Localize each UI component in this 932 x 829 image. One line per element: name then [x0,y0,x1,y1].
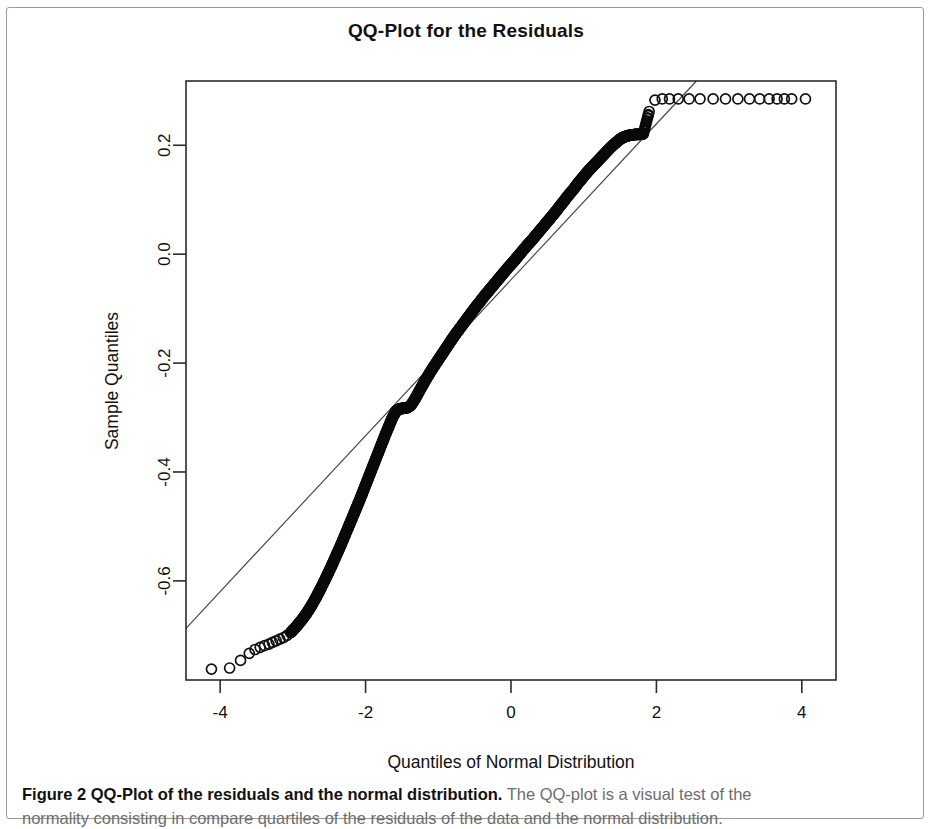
y-tick-label-1: 0.0 [155,242,174,266]
x-tick-label-2: 0 [506,703,515,722]
data-point [236,655,246,665]
figure-caption: Figure 2 QQ-Plot of the residuals and th… [22,783,912,829]
data-point [225,663,235,673]
x-tick-label-0: -4 [213,703,228,722]
qq-plot-figure: QQ-Plot for the Residuals Quantiles of N… [0,0,932,782]
qq-plot-svg: QQ-Plot for the Residuals Quantiles of N… [0,0,932,782]
y-tick-label-4: -0.6 [155,566,174,595]
caption-figure-label: Figure 2 QQ-Plot of the residuals and th… [22,785,502,803]
x-axis-title: Quantiles of Normal Distribution [387,752,634,772]
y-tick-label-2: -0.2 [155,348,174,377]
plot-area: -4-20240.20.0-0.2-0.4-0.6 [155,81,810,722]
data-point [206,664,216,674]
y-tick-label-3: -0.4 [155,457,174,486]
plot-box [186,81,836,680]
x-tick-label-4: 4 [797,703,806,722]
data-point [708,94,718,104]
y-tick-label-0: 0.2 [155,133,174,157]
data-point [787,94,797,104]
data-point [720,94,730,104]
data-point [695,94,705,104]
caption-text: The QQ-plot is a visual test of the [502,785,751,803]
x-tick-label-1: -2 [358,703,373,722]
data-point [755,94,765,104]
plot-title: QQ-Plot for the Residuals [348,20,584,41]
data-points [206,94,810,674]
data-point [744,94,754,104]
y-axis-title: Sample Quantiles [102,312,122,450]
x-tick-label-3: 2 [652,703,661,722]
data-point [800,94,810,104]
data-point [684,94,694,104]
caption-text-line2: normality consisting in compare quartile… [22,807,912,829]
data-point [733,94,743,104]
